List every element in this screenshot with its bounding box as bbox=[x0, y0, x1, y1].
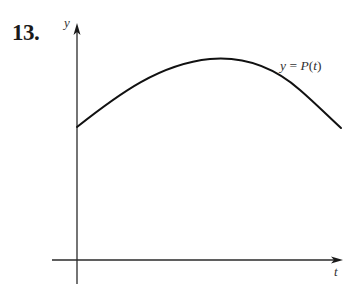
figure: 13. y t y = P(t) bbox=[0, 0, 360, 293]
y-axis-label: y bbox=[64, 15, 70, 31]
graph bbox=[0, 0, 360, 293]
curve-label-fn: P bbox=[300, 58, 308, 73]
y-axis bbox=[74, 23, 81, 284]
x-axis-label: t bbox=[334, 264, 338, 280]
x-axis bbox=[52, 257, 343, 264]
curve-label-close: ) bbox=[317, 58, 322, 73]
curve-label: y = P(t) bbox=[280, 58, 321, 74]
curve-label-eq: = bbox=[286, 58, 300, 73]
